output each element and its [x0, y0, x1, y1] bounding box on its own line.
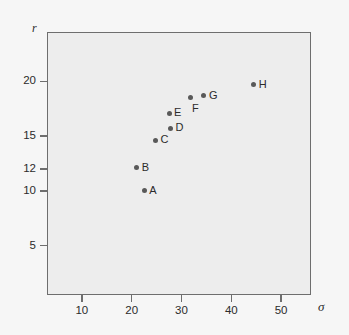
data-point-label: D: [176, 122, 184, 133]
scatter-plot-figure: r σ 510121520 1020304050 ABCDEFGH: [0, 0, 349, 335]
y-tick-mark: [40, 81, 47, 83]
data-point: [251, 82, 256, 87]
data-point-label: B: [142, 162, 149, 173]
data-point: [188, 95, 193, 100]
y-tick-mark: [40, 190, 47, 192]
x-tick-label: 10: [75, 305, 88, 317]
y-tick-mark: [40, 168, 47, 170]
x-tick-mark: [81, 295, 83, 302]
x-axis-label: σ: [318, 300, 324, 313]
y-tick-mark: [40, 135, 47, 137]
x-tick-label: 40: [225, 305, 238, 317]
data-points-layer: ABCDEFGH: [47, 32, 311, 295]
data-point: [134, 165, 139, 170]
data-point-label: C: [161, 134, 169, 145]
y-tick-label: 20: [23, 75, 36, 87]
data-point-label: H: [259, 79, 267, 90]
data-point: [168, 126, 173, 131]
data-point: [142, 188, 147, 193]
x-tick-label: 30: [175, 305, 188, 317]
data-point-label: G: [209, 90, 218, 101]
data-point: [167, 111, 172, 116]
y-tick-mark: [40, 245, 47, 247]
data-point: [201, 93, 206, 98]
x-tick-mark: [181, 295, 183, 302]
x-tick-label: 50: [275, 305, 288, 317]
y-axis-label: r: [32, 22, 37, 34]
data-point-label: F: [192, 103, 199, 114]
data-point-label: A: [149, 185, 156, 196]
data-point: [153, 138, 158, 143]
data-point-label: E: [174, 107, 181, 118]
y-tick-label: 10: [23, 185, 36, 197]
x-tick-mark: [231, 295, 233, 302]
y-tick-label: 15: [23, 130, 36, 142]
x-tick-mark: [280, 295, 282, 302]
x-tick-mark: [131, 295, 133, 302]
y-tick-label: 12: [23, 163, 36, 175]
y-tick-label: 5: [30, 240, 36, 252]
x-tick-label: 20: [125, 305, 138, 317]
